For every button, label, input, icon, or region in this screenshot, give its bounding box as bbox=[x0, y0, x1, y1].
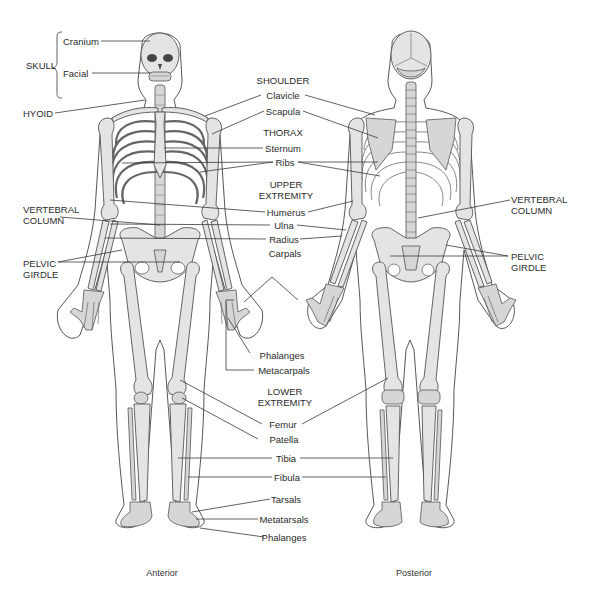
label-upper-line1: UPPER bbox=[259, 179, 313, 190]
caption-anterior: Anterior bbox=[146, 568, 178, 578]
label-pelvic-girdle-left: PELVIC GIRDLE bbox=[23, 258, 58, 280]
label-humerus: Humerus bbox=[267, 207, 306, 218]
label-facial: Facial bbox=[63, 68, 88, 79]
label-vertebral-line2: COLUMN bbox=[23, 215, 79, 226]
label-lower-line2: EXTREMITY bbox=[258, 397, 312, 408]
label-pelvic-line2: GIRDLE bbox=[23, 269, 58, 280]
label-ribs: Ribs bbox=[275, 157, 294, 168]
skeleton-diagram: SKULL Cranium Facial HYOID VERTEBRAL COL… bbox=[0, 0, 590, 591]
label-pelvic-line2: GIRDLE bbox=[511, 262, 546, 273]
label-thorax: THORAX bbox=[263, 127, 303, 138]
label-pelvic-line1: PELVIC bbox=[511, 251, 546, 262]
label-ulna: Ulna bbox=[274, 220, 294, 231]
label-cranium: Cranium bbox=[63, 36, 99, 47]
label-femur: Femur bbox=[269, 419, 296, 430]
label-tarsals: Tarsals bbox=[271, 494, 301, 505]
label-patella: Patella bbox=[269, 434, 298, 445]
label-carpals: Carpals bbox=[269, 248, 302, 259]
label-vertebral-column-left: VERTEBRAL COLUMN bbox=[23, 204, 79, 226]
label-phalanges-foot: Phalanges bbox=[262, 532, 307, 543]
label-sternum: Sternum bbox=[265, 143, 301, 154]
label-clavicle: Clavicle bbox=[266, 90, 299, 101]
label-shoulder: SHOULDER bbox=[257, 75, 310, 86]
label-fibula: Fibula bbox=[274, 472, 300, 483]
anterior-skeleton bbox=[57, 33, 262, 528]
label-vertebral-line2: COLUMN bbox=[511, 205, 567, 216]
label-upper-line2: EXTREMITY bbox=[259, 190, 313, 201]
label-vertebral-column-right: VERTEBRAL COLUMN bbox=[511, 194, 567, 216]
label-upper-extremity: UPPER EXTREMITY bbox=[259, 179, 313, 201]
label-phalanges-hand: Phalanges bbox=[260, 350, 305, 361]
caption-posterior: Posterior bbox=[396, 568, 432, 578]
label-radius: Radius bbox=[269, 234, 299, 245]
label-tibia: Tibia bbox=[276, 453, 296, 464]
label-lower-line1: LOWER bbox=[258, 386, 312, 397]
label-metacarpals: Metacarpals bbox=[258, 365, 310, 376]
label-metatarsals: Metatarsals bbox=[259, 514, 308, 525]
label-vertebral-line1: VERTEBRAL bbox=[511, 194, 567, 205]
label-pelvic-girdle-right: PELVIC GIRDLE bbox=[511, 251, 546, 273]
label-hyoid: HYOID bbox=[23, 108, 53, 119]
posterior-skeleton bbox=[306, 31, 516, 528]
label-pelvic-line1: PELVIC bbox=[23, 258, 58, 269]
label-skull: SKULL bbox=[26, 60, 56, 71]
label-lower-extremity: LOWER EXTREMITY bbox=[258, 386, 312, 408]
label-scapula: Scapula bbox=[266, 106, 300, 117]
label-vertebral-line1: VERTEBRAL bbox=[23, 204, 79, 215]
